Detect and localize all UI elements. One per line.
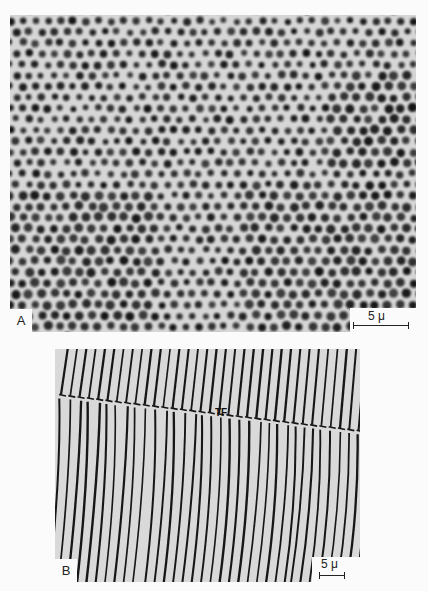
panel-a-micrograph: A 5 μ xyxy=(10,15,416,332)
panel-b-label: B xyxy=(55,559,77,582)
panel-a-label: A xyxy=(10,309,32,332)
panel-a-scale-bar xyxy=(353,325,409,326)
stripe-pattern-image xyxy=(55,349,360,582)
panel-b-scale-label: 5 μ xyxy=(321,557,338,571)
panel-b-label-text: B xyxy=(62,563,71,578)
panel-a-scale-box: 5 μ xyxy=(350,308,416,332)
panel-a-label-text: A xyxy=(17,313,26,328)
panel-b-micrograph: TF B 5 μ xyxy=(55,349,360,582)
panel-a-scale-label: 5 μ xyxy=(368,309,385,323)
dot-array-image xyxy=(10,15,416,332)
tf-annotation: TF xyxy=(215,407,227,418)
panel-b-scale-bar xyxy=(319,575,345,576)
panel-b-scale-box: 5 μ xyxy=(312,557,360,582)
